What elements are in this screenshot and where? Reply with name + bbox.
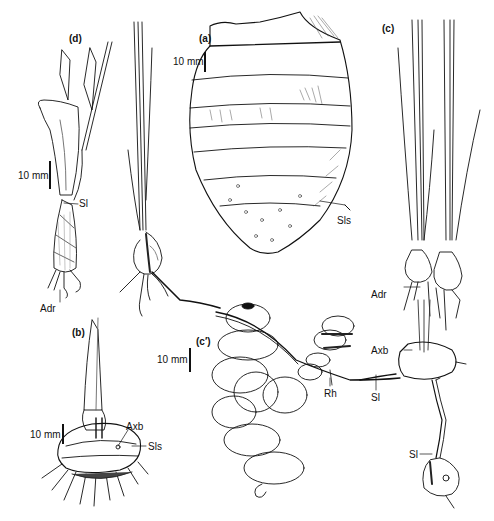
label-b-sls: Sls <box>148 441 162 452</box>
label-b-axb: Axb <box>126 421 143 432</box>
label-c-axb: Axb <box>371 345 388 356</box>
panel-b-drawing <box>42 318 148 506</box>
panel-label-c: (c) <box>382 23 394 34</box>
label-c-adr: Adr <box>371 289 387 300</box>
panel-label-c-prime: (c′) <box>196 336 211 347</box>
panel-label-d: (d) <box>69 33 82 44</box>
panel-c-drawing <box>360 20 480 508</box>
label-d-adr: Adr <box>40 303 56 314</box>
scale-label-d: 10 mm <box>18 170 49 181</box>
label-c-sl-lower: Sl <box>409 449 418 460</box>
scale-label-c-prime: 10 mm <box>157 354 188 365</box>
scale-label-b: 10 mm <box>30 429 61 440</box>
panel-label-b: (b) <box>72 327 85 338</box>
leader-lines <box>60 201 432 454</box>
line-drawing <box>0 0 494 521</box>
scale-bar-b <box>62 424 64 444</box>
label-c-sl-rhizome: Sl <box>371 392 380 403</box>
label-d-sl: Sl <box>79 198 88 209</box>
scale-bar-a <box>204 52 206 72</box>
scale-bar-c-prime <box>189 348 191 372</box>
panel-a-drawing <box>190 12 352 253</box>
label-c-prime-rh: Rh <box>324 388 337 399</box>
scale-bar-d <box>49 161 51 189</box>
botanical-figure: (d) (a) (c) (b) (c′) 10 mm 10 mm 10 mm 1… <box>0 0 494 521</box>
label-a-sls: Sls <box>337 215 351 226</box>
scale-label-a: 10 mm <box>173 56 204 67</box>
panel-label-a: (a) <box>199 33 211 44</box>
